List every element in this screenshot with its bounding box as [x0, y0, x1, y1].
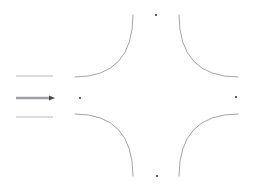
canvas-background [0, 0, 254, 190]
dot-bottom [156, 175, 158, 177]
dot-right [235, 96, 237, 98]
figure-svg [0, 0, 254, 190]
dot-top [155, 14, 157, 16]
dot-left [79, 97, 81, 99]
diagram-canvas [0, 0, 254, 190]
